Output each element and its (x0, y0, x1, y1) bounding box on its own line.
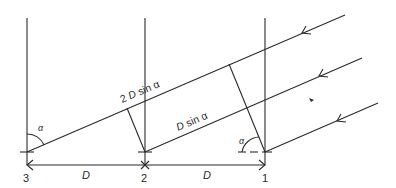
svg-text:D sin α: D sin α (174, 109, 209, 133)
spacing-label-3-2: D (82, 169, 90, 181)
angle-arc-sensor-3 (27, 134, 44, 145)
angle-label-sensor-3: α (38, 123, 44, 133)
angle-arc-sensor-1 (242, 137, 259, 152)
svg-text:2 D sin α: 2 D sin α (118, 78, 161, 105)
sensor-label-3: 3 (23, 172, 29, 184)
antenna-array-diagram: α α 3 2 1 D D 2 D sin α D sin α (0, 0, 396, 188)
path-difference-long-label: 2 D sin α (118, 78, 161, 105)
spacing-label-2-1: D (203, 169, 211, 181)
path-difference-short-label: D sin α (174, 109, 209, 133)
perpendicular-sensor-1 (229, 64, 265, 152)
sensor-label-1: 1 (262, 172, 268, 184)
sensor-label-2: 2 (141, 172, 147, 184)
angle-label-sensor-1: α (239, 136, 245, 146)
perpendicular-sensor-2 (127, 108, 145, 152)
ray-top (27, 15, 345, 152)
ray-bottom (265, 103, 378, 152)
stray-mark (309, 98, 314, 102)
